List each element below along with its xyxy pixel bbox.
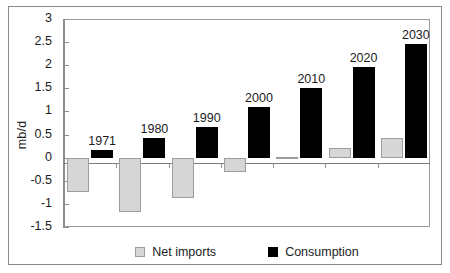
bar-net-imports (119, 158, 141, 213)
bar-consumption (248, 107, 270, 158)
bar-consumption (143, 138, 165, 158)
bar-group: 1990 (169, 19, 221, 227)
y-tick-label: 0 (6, 151, 52, 163)
bar-net-imports (276, 157, 298, 159)
bar-net-imports (67, 158, 89, 193)
bar-group: 2010 (273, 19, 325, 227)
legend-item-consumption: Consumption (268, 245, 359, 259)
y-tick-label: 3 (6, 12, 52, 24)
bar-group: 1971 (64, 19, 116, 227)
legend-label-net-imports: Net imports (152, 245, 216, 259)
y-tick-label: -1 (6, 197, 52, 209)
bar-group: 1980 (116, 19, 168, 227)
y-tick-mark (64, 227, 69, 228)
chart-figure: mb/d 32.521.510.50-0.5-1-1.5 19711980199… (0, 0, 450, 273)
bar-group: 2030 (378, 19, 430, 227)
legend-item-net-imports: Net imports (135, 245, 216, 259)
bar-net-imports (172, 158, 194, 198)
y-tick-label: 0.5 (6, 128, 52, 140)
y-tick-label: 2 (6, 58, 52, 70)
bar-group: 2020 (325, 19, 377, 227)
y-tick-label: 1 (6, 104, 52, 116)
bar-net-imports (224, 158, 246, 172)
bar-net-imports (381, 138, 403, 157)
black-square-icon (268, 247, 278, 257)
bar-consumption (353, 67, 375, 158)
bar-consumption (405, 44, 427, 157)
y-tick-label: -0.5 (6, 174, 52, 186)
chart-legend: Net imports Consumption (64, 243, 430, 261)
bars-layer: 1971198019902000201020202030 (64, 19, 430, 227)
bar-net-imports (329, 148, 351, 157)
bar-group: 2000 (221, 19, 273, 227)
bar-consumption (300, 88, 322, 157)
y-tick-label: 2.5 (6, 35, 52, 47)
bar-consumption (91, 150, 113, 158)
legend-label-consumption: Consumption (285, 245, 359, 259)
y-tick-label: 1.5 (6, 81, 52, 93)
bar-year-label: 2030 (392, 28, 440, 42)
gray-square-icon (135, 247, 145, 257)
y-tick-label: -1.5 (6, 220, 52, 232)
bar-consumption (196, 127, 218, 158)
